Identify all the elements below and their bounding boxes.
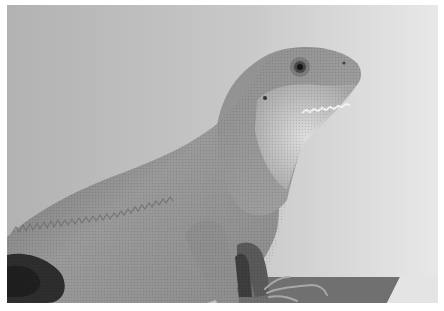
lizard-photo xyxy=(7,5,438,303)
